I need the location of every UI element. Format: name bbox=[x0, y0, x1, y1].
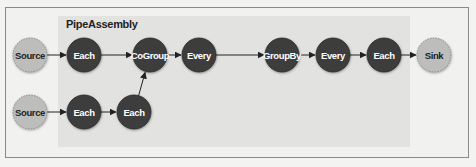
node-every2: Every bbox=[316, 38, 350, 72]
node-sink: Sink bbox=[417, 38, 451, 72]
node-label: Each bbox=[373, 50, 395, 61]
node-source1: Source bbox=[13, 38, 47, 72]
node-label: Source bbox=[15, 50, 45, 61]
node-each4: Each bbox=[117, 95, 151, 129]
node-each2: Each bbox=[367, 38, 401, 72]
node-label: Every bbox=[321, 50, 346, 61]
nodes-layer: SourceEachCoGroupEveryGroupByEveryEachSi… bbox=[13, 38, 451, 129]
flow-graph: SourceEachCoGroupEveryGroupByEveryEachSi… bbox=[0, 0, 476, 167]
node-label: Each bbox=[123, 107, 145, 118]
node-label: Source bbox=[15, 107, 45, 118]
node-label: Each bbox=[73, 107, 95, 118]
node-label: GroupBy bbox=[263, 50, 302, 61]
node-label: Every bbox=[187, 50, 212, 61]
node-label: CoGroup bbox=[131, 50, 170, 61]
node-label: Each bbox=[73, 50, 95, 61]
node-cogroup: CoGroup bbox=[131, 38, 170, 72]
node-label: Sink bbox=[425, 50, 445, 61]
node-every1: Every bbox=[182, 38, 216, 72]
node-each3: Each bbox=[67, 95, 101, 129]
edge-each4-to-cogroup bbox=[139, 72, 146, 95]
node-groupby: GroupBy bbox=[263, 38, 302, 72]
node-each1: Each bbox=[67, 38, 101, 72]
node-source2: Source bbox=[13, 95, 47, 129]
edges-layer bbox=[47, 55, 416, 112]
